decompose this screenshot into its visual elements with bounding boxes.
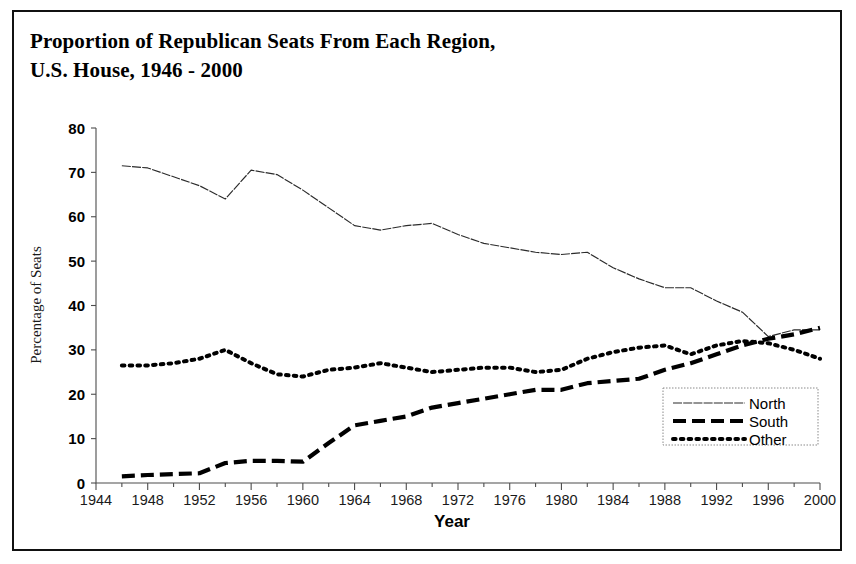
x-tick-label: 1952 [183, 492, 215, 508]
y-tick-labels: 01020304050607080 [68, 120, 85, 492]
y-tick-label: 50 [68, 253, 85, 270]
series-line-north [122, 166, 820, 337]
x-tick-label: 1980 [545, 492, 577, 508]
legend-box [663, 388, 818, 445]
legend-label-south: South [749, 413, 788, 430]
x-tick-label: 1976 [494, 492, 526, 508]
x-axis-title: Year [434, 512, 470, 531]
x-tick-label: 1988 [649, 492, 681, 508]
x-tick-label: 1992 [700, 492, 732, 508]
x-tick-label: 1996 [752, 492, 784, 508]
legend-label-north: North [749, 395, 786, 412]
line-chart: 01020304050607080 1944194819521956196019… [0, 0, 856, 564]
x-tick-label: 1944 [80, 492, 112, 508]
y-tick-label: 70 [68, 164, 85, 181]
figure-canvas: Proportion of Republican Seats From Each… [0, 0, 856, 564]
y-axis-title: Percentage of Seats [28, 246, 44, 364]
x-tick-label: 1956 [235, 492, 267, 508]
series-line-other [122, 341, 820, 377]
x-tick-label: 1948 [132, 492, 164, 508]
y-tick-label: 20 [68, 386, 85, 403]
y-tick-label: 10 [68, 430, 85, 447]
x-tick-label: 1964 [338, 492, 370, 508]
x-tick-label: 1968 [390, 492, 422, 508]
y-tick-label: 80 [68, 120, 85, 137]
y-tick-label: 40 [68, 297, 85, 314]
legend-label-other: Other [749, 431, 787, 448]
x-tick-label: 1984 [597, 492, 629, 508]
x-tick-labels: 1944194819521956196019641968197219761980… [80, 492, 836, 508]
chart-legend: NorthSouthOther [663, 388, 818, 448]
x-tick-label: 1960 [287, 492, 319, 508]
y-tick-label: 30 [68, 341, 85, 358]
y-tick-label: 0 [77, 475, 85, 492]
x-tick-label: 1972 [442, 492, 474, 508]
y-tick-label: 60 [68, 208, 85, 225]
x-tick-label: 2000 [804, 492, 836, 508]
chart-plot-area: 01020304050607080 1944194819521956196019… [0, 0, 856, 564]
